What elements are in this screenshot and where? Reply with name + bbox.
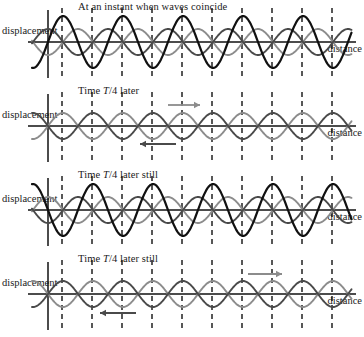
arrow-head	[100, 310, 106, 316]
wave-left-direction-arrow	[100, 310, 136, 316]
arrow-head	[140, 141, 146, 147]
wave-panel-1: At an instant when waves coincide displa…	[0, 0, 364, 84]
panel-2-plot	[0, 84, 364, 168]
wave-right-direction-arrow	[168, 102, 200, 108]
wave-panel-3: Time T/4 later still displacement distan…	[0, 168, 364, 252]
panel-1-plot	[0, 0, 364, 84]
arrow-head	[194, 102, 200, 108]
wave-panel-4: Time T/4 later still displacement distan…	[0, 252, 364, 336]
panel-4-plot	[0, 252, 364, 336]
wave-right-direction-arrow	[248, 271, 282, 277]
panel-3-plot	[0, 168, 364, 252]
wave-panel-2: Time T/4 later displacement distance	[0, 84, 364, 168]
arrow-head	[276, 271, 282, 277]
wave-left-direction-arrow	[140, 141, 176, 147]
